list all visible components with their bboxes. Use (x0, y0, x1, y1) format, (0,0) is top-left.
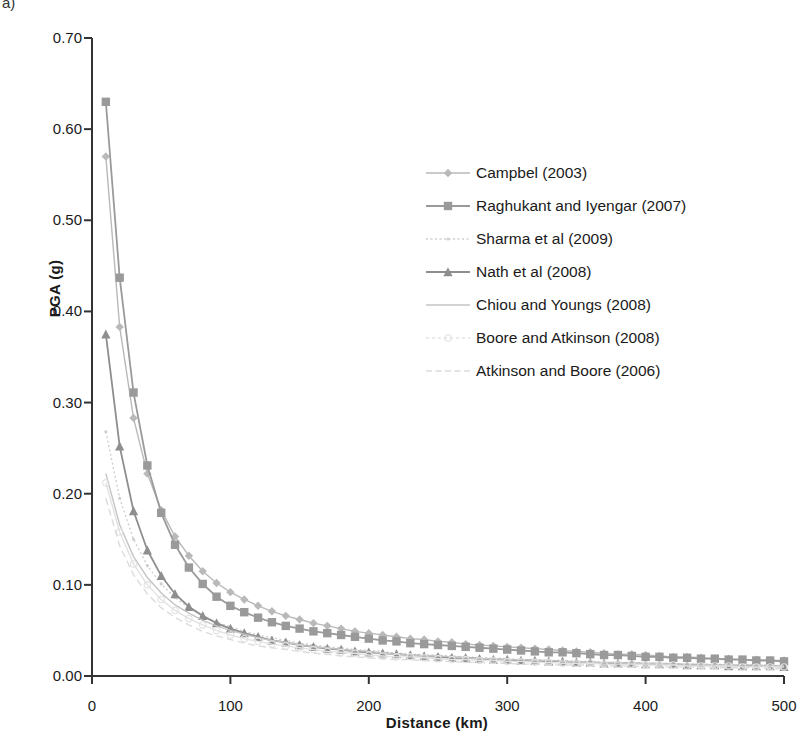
series-6 (106, 498, 784, 668)
legend-marker-none-dashed-icon (424, 364, 472, 378)
data-point-marker (531, 647, 539, 655)
data-point-marker (337, 631, 345, 639)
x-tick-label: 0 (62, 698, 122, 713)
data-point-marker (115, 274, 123, 282)
data-point-marker (185, 563, 193, 571)
y-tick-labels: 0.000.100.200.300.400.500.600.70 (20, 0, 82, 756)
data-point-marker (118, 497, 121, 500)
data-point-marker (129, 506, 138, 515)
data-point-marker (143, 545, 152, 554)
data-point-marker (461, 643, 469, 651)
x-tick-label: 500 (754, 698, 798, 713)
legend-label: Atkinson and Boore (2006) (472, 362, 660, 380)
data-point-marker (254, 602, 262, 610)
legend-label: Raghukant and Iyengar (2007) (472, 197, 686, 215)
data-point-marker (572, 649, 580, 657)
y-tick-marks (84, 38, 92, 676)
data-point-marker (212, 593, 220, 601)
data-point-marker (600, 651, 608, 659)
data-point-marker (309, 627, 317, 635)
legend-item: Atkinson and Boore (2006) (424, 354, 744, 387)
data-point-marker (102, 98, 110, 106)
x-axis-title: Distance (km) (92, 714, 782, 731)
data-point-marker (129, 414, 137, 422)
series-line (106, 498, 784, 668)
data-point-marker (129, 388, 137, 396)
data-point-marker (146, 564, 149, 567)
data-point-marker (240, 608, 248, 616)
data-point-marker (444, 168, 452, 176)
data-point-marker (132, 538, 135, 541)
legend-item: Raghukant and Iyengar (2007) (424, 189, 744, 222)
x-tick-labels: 0100200300400500 (0, 686, 798, 712)
data-point-marker (226, 588, 234, 596)
data-point-marker (434, 641, 442, 649)
data-point-marker (240, 595, 248, 603)
legend-item: Boore and Atkinson (2008) (424, 321, 744, 354)
data-point-marker (101, 329, 110, 338)
data-point-marker (406, 639, 414, 647)
data-point-marker (282, 622, 290, 630)
data-point-marker (475, 644, 483, 652)
data-point-marker (268, 607, 276, 615)
data-point-marker (365, 634, 373, 642)
data-point-marker (157, 509, 165, 517)
data-point-marker (503, 645, 511, 653)
legend-item: Nath et al (2008) (424, 255, 744, 288)
data-point-marker (420, 640, 428, 648)
legend-item: Sharma et al (2009) (424, 222, 744, 255)
series-line (106, 432, 784, 666)
data-point-marker (282, 612, 290, 620)
y-tick-label: 0.00 (26, 668, 82, 683)
data-point-marker (323, 629, 331, 637)
legend-label: Sharma et al (2009) (472, 230, 613, 248)
data-point-marker (254, 613, 262, 621)
data-point-marker (226, 602, 234, 610)
x-tick-marks (92, 676, 784, 684)
x-tick-label: 200 (339, 698, 399, 713)
data-point-marker (104, 430, 107, 433)
data-point-marker (392, 637, 400, 645)
y-tick-label: 0.70 (26, 30, 82, 45)
data-point-marker (295, 624, 303, 632)
data-point-marker (157, 571, 166, 580)
data-point-marker (323, 622, 331, 630)
y-tick-label: 0.30 (26, 395, 82, 410)
legend-label: Boore and Atkinson (2008) (472, 329, 660, 347)
data-point-marker (160, 582, 163, 585)
chart-legend: Campbel (2003)Raghukant and Iyengar (200… (424, 156, 744, 387)
data-point-marker (102, 152, 110, 160)
series-line (106, 474, 784, 666)
data-point-marker (268, 618, 276, 626)
x-tick-label: 100 (200, 698, 260, 713)
data-point-marker (545, 648, 553, 656)
legend-marker-triangle-icon (424, 265, 472, 279)
legend-label: Nath et al (2008) (472, 263, 591, 281)
data-point-marker (309, 619, 317, 627)
y-tick-label: 0.20 (26, 486, 82, 501)
legend-marker-circle-faint-icon (424, 331, 472, 345)
data-point-marker (448, 642, 456, 650)
data-point-marker (199, 580, 207, 588)
data-point-marker (446, 237, 449, 240)
legend-item: Chiou and Youngs (2008) (424, 288, 744, 321)
data-point-marker (558, 648, 566, 656)
legend-label: Chiou and Youngs (2008) (472, 296, 651, 314)
data-point-marker (489, 644, 497, 652)
series-4 (106, 474, 784, 666)
legend-marker-none-dotted-icon (424, 232, 472, 246)
data-point-marker (517, 646, 525, 654)
legend-marker-diamond-icon (424, 166, 472, 180)
data-point-marker (614, 651, 622, 659)
y-tick-label: 0.60 (26, 121, 82, 136)
y-tick-label: 0.50 (26, 212, 82, 227)
y-axis-title: PGA (g) (46, 229, 63, 349)
data-point-marker (115, 323, 123, 331)
data-point-marker (444, 201, 452, 209)
x-tick-label: 400 (616, 698, 676, 713)
legend-marker-square-icon (424, 199, 472, 213)
data-point-marker (586, 650, 594, 658)
data-point-marker (295, 615, 303, 623)
data-point-marker (351, 633, 359, 641)
x-tick-label: 300 (477, 698, 537, 713)
